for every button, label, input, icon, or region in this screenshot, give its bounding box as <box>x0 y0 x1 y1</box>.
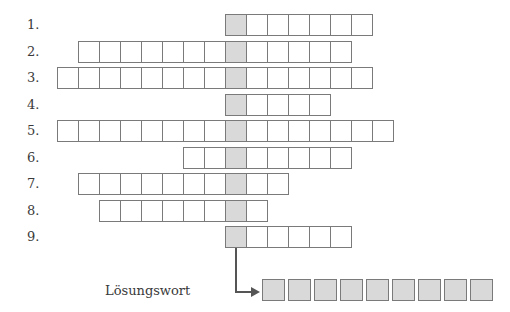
solution-cell[interactable] <box>340 279 363 301</box>
solution-cell[interactable] <box>444 279 467 301</box>
arrow-icon <box>0 0 510 312</box>
solution-label: Lösungswort <box>105 283 190 298</box>
solution-cell[interactable] <box>418 279 441 301</box>
solution-cell[interactable] <box>470 279 493 301</box>
solution-cell[interactable] <box>288 279 311 301</box>
solution-cell[interactable] <box>392 279 415 301</box>
solution-cell[interactable] <box>366 279 389 301</box>
solution-cell[interactable] <box>262 279 285 301</box>
solution-cell[interactable] <box>314 279 337 301</box>
solution-word-cells <box>262 279 493 301</box>
